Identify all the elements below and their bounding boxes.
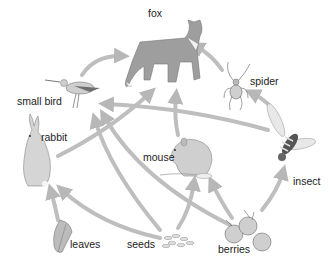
organism-label-mouse: mouse	[143, 152, 175, 163]
seeds-icon	[162, 234, 194, 247]
organism-label-fox: fox	[148, 8, 162, 19]
rabbit-icon	[24, 114, 51, 187]
arrow-leaves-to-rabbit	[51, 191, 58, 220]
organism-label-insect: insect	[293, 176, 320, 187]
organism-label-leaves: leaves	[70, 239, 100, 250]
organism-label-seeds: seeds	[127, 239, 155, 250]
arrow-smallbird-to-fox	[82, 56, 122, 75]
organism-label-small-bird: small bird	[17, 96, 62, 107]
fox-icon	[125, 20, 202, 87]
insect-icon	[264, 102, 317, 161]
arrow-spider-to-fox	[196, 46, 222, 70]
arrow-mouse-to-fox	[175, 96, 178, 135]
arrow-berries-to-insect	[262, 172, 283, 210]
arrow-berries-to-mouse	[212, 183, 232, 218]
organism-label-rabbit: rabbit	[41, 132, 67, 143]
food-web-diagram: fox small bird spider rabbit mouse insec…	[0, 0, 336, 269]
spider-icon	[224, 62, 250, 110]
organism-label-berries: berries	[218, 244, 250, 255]
organism-label-spider: spider	[250, 76, 279, 87]
arrow-berries-to-smallbird	[104, 116, 230, 225]
